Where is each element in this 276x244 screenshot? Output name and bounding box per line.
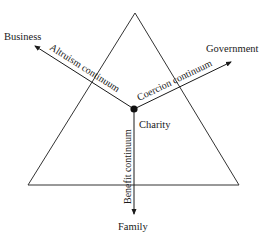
benefit-axis-label: Benefit continuum [122,129,133,204]
family-label: Family [118,221,149,232]
charity-label: Charity [139,119,171,130]
business-label: Business [4,31,41,42]
charity-center-dot [130,105,137,112]
altruism-axis-label: Altruism continuum [48,41,122,94]
altruism-axis-arrow [35,46,134,109]
government-label: Government [206,43,259,54]
coercion-axis-label: Coercion continuum [135,57,214,103]
continuum-diagram: Altruism continuum Coercion continuum Be… [0,0,276,244]
